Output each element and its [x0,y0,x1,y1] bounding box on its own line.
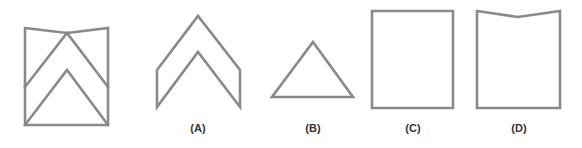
option-b-triangle [272,42,353,97]
option-d-label: (D) [499,122,539,134]
option-c-rectangle [372,11,453,108]
option-a-label: (A) [178,122,218,134]
option-b-label: (B) [293,122,333,134]
option-d-notched-rectangle [477,11,560,108]
figure-canvas [0,0,582,148]
question-figure [25,28,108,125]
option-a-chevron [157,16,240,107]
question-outer-chevron [25,33,108,87]
option-c-label: (C) [393,122,433,134]
question-inner-chevron [25,70,108,125]
